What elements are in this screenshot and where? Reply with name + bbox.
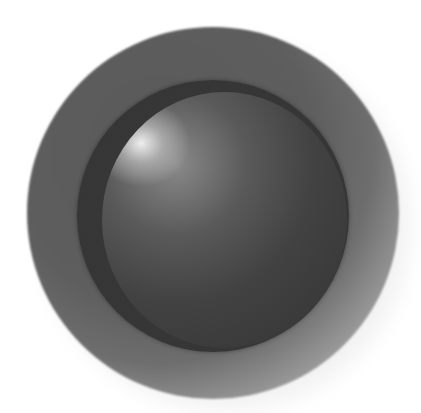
canvas (0, 0, 421, 413)
glossy-sphere-button-icon[interactable] (102, 92, 347, 348)
